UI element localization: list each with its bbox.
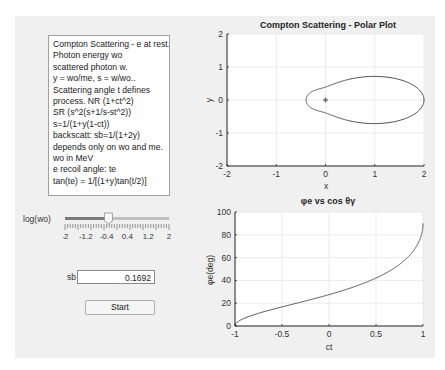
svg-text:0.5: 0.5: [370, 329, 382, 339]
info-text-line: scattered photon w.: [53, 62, 169, 73]
svg-text:0: 0: [323, 169, 328, 179]
info-text-line: y = wo/me, s = w/wo..: [53, 73, 169, 84]
svg-text:-1: -1: [272, 169, 280, 179]
slider-tick-label: -2: [63, 232, 69, 241]
svg-text:1: 1: [421, 329, 426, 339]
info-text-line: backscatt: sb=1/(1+2y): [53, 130, 169, 141]
recoil-ylabel: φe(deg): [205, 255, 215, 285]
svg-text:100: 100: [217, 207, 231, 217]
slider-tick-labels: -2-1.2-0.40.41.22: [63, 232, 171, 241]
polar-ylabel: y: [204, 97, 214, 102]
slider-tick-label: -1.2: [79, 232, 93, 241]
svg-text:1: 1: [218, 62, 223, 72]
svg-text:80: 80: [222, 230, 232, 240]
info-text-line: s=1/(1+y(1-ct)): [53, 119, 169, 130]
recoil-xlabel: ct: [326, 342, 333, 352]
svg-text:40: 40: [222, 275, 232, 285]
svg-text:2: 2: [422, 169, 427, 179]
info-text-line: wo in MeV: [53, 153, 169, 164]
sb-label: sb: [67, 272, 76, 282]
info-text-line: SR (s^2(s+1/s-st^2)): [53, 107, 169, 118]
svg-text:-1: -1: [231, 329, 239, 339]
svg-text:0: 0: [226, 321, 231, 331]
slider-ticks: [65, 224, 169, 230]
polar-plot-title: Compton Scattering - Polar Plot: [260, 20, 396, 30]
info-text-line: Compton Scattering - e at rest.: [53, 39, 169, 50]
svg-text:1: 1: [372, 169, 377, 179]
info-text-line: process. NR (1+ct^2): [53, 96, 169, 107]
info-text-line: Scattering angle t defines: [53, 85, 169, 96]
svg-text:60: 60: [222, 253, 232, 263]
info-text-line: depends only on wo and me.: [53, 142, 169, 153]
svg-text:2: 2: [218, 29, 223, 39]
svg-text:20: 20: [222, 298, 232, 308]
info-text-box: Compton Scattering - e at rest.Photon en…: [48, 35, 170, 196]
recoil-angle-plot: φe vs cos θγ -1-0.500.51020406080100 ct …: [200, 190, 440, 370]
svg-text:-0.5: -0.5: [275, 329, 290, 339]
polar-plot: Compton Scattering - Polar Plot -2-1012-…: [200, 16, 440, 191]
slider-label: log(wo): [23, 214, 51, 224]
svg-text:-2: -2: [223, 169, 231, 179]
start-button[interactable]: Start: [85, 300, 155, 315]
svg-text:0: 0: [327, 329, 332, 339]
slider-tick-label: 0.4: [122, 232, 134, 241]
sb-field[interactable]: [77, 270, 155, 284]
svg-text:-2: -2: [215, 161, 223, 171]
recoil-plot-title: φe vs cos θγ: [301, 196, 355, 206]
slider-tick-label: -0.4: [100, 232, 114, 241]
svg-text:-1: -1: [215, 128, 223, 138]
log-wo-slider[interactable]: -2-1.2-0.40.41.22: [63, 211, 171, 245]
info-text-line: tan(te) = 1/[(1+y)tan(t/2)]: [53, 176, 169, 187]
info-text-line: Photon energy wo: [53, 50, 169, 61]
slider-thumb[interactable]: [104, 213, 112, 224]
info-text-line: e recoil angle: te: [53, 164, 169, 175]
slider-tick-label: 2: [167, 232, 171, 241]
svg-text:0: 0: [218, 95, 223, 105]
slider-tick-label: 1.2: [143, 232, 155, 241]
slider-fill: [65, 217, 107, 220]
